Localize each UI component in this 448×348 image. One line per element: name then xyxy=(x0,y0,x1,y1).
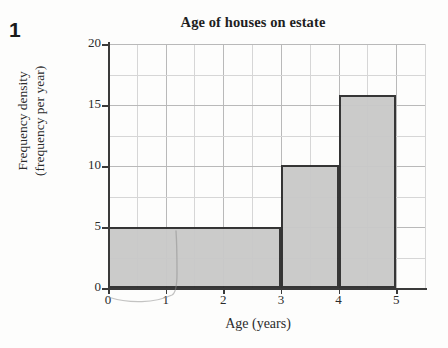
x-tick-mark xyxy=(108,288,110,294)
y-tick-label: 10 xyxy=(61,157,101,173)
y-tick-mark xyxy=(102,227,109,229)
x-tick-mark xyxy=(166,288,168,294)
x-tick-label: 4 xyxy=(329,292,349,308)
y-tick-label: 20 xyxy=(61,35,101,51)
y-tick-mark xyxy=(102,166,109,168)
y-tick-label: 0 xyxy=(61,279,101,295)
x-tick-label: 2 xyxy=(213,292,233,308)
x-tick-label: 3 xyxy=(271,292,291,308)
y-axis-title-line2: (frequency per year) xyxy=(32,36,49,206)
y-tick-mark xyxy=(102,44,109,46)
histogram-bar xyxy=(108,227,281,288)
y-axis-title: Frequency density (frequency per year) xyxy=(15,36,49,206)
gridline-vertical xyxy=(425,44,426,288)
gridline-horizontal xyxy=(108,44,425,45)
y-tick-label: 15 xyxy=(61,96,101,112)
y-axis-title-line1: Frequency density xyxy=(15,36,32,206)
x-axis-line xyxy=(107,288,427,290)
histogram-bar xyxy=(339,95,397,288)
y-tick-label: 5 xyxy=(61,218,101,234)
histogram-bar xyxy=(281,165,339,288)
x-tick-mark xyxy=(396,288,398,294)
plot-area xyxy=(108,44,425,288)
x-tick-mark xyxy=(223,288,225,294)
chart-title: Age of houses on estate xyxy=(108,14,398,31)
gridline-horizontal xyxy=(108,75,425,76)
y-tick-mark xyxy=(102,105,109,107)
y-tick-labels: 05101520 xyxy=(55,0,101,348)
x-tick-mark xyxy=(281,288,283,294)
x-tick-label: 0 xyxy=(98,292,118,308)
x-tick-label: 5 xyxy=(386,292,406,308)
x-axis-title: Age (years) xyxy=(108,316,408,332)
x-tick-mark xyxy=(339,288,341,294)
x-tick-label: 1 xyxy=(156,292,176,308)
